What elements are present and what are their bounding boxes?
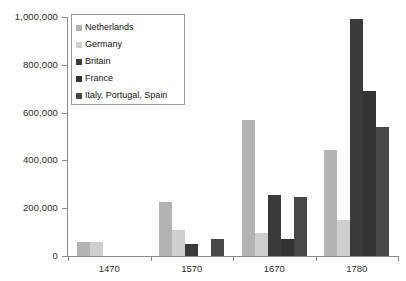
bar-italy-portugal-spain-1670 <box>294 197 307 256</box>
bar-britain-1670 <box>268 195 281 256</box>
legend-swatch-icon <box>76 93 82 99</box>
bar-italy-portugal-spain-1780 <box>376 127 389 256</box>
bar-netherlands-1670 <box>242 120 255 256</box>
legend-swatch-icon <box>76 76 82 82</box>
y-axis-tick-label: 1,000,000 <box>0 12 58 22</box>
legend-item-label: Britain <box>85 57 111 66</box>
bar-germany-1470 <box>90 242 103 256</box>
legend-item-label: France <box>85 74 113 83</box>
legend-item: Germany <box>76 36 180 53</box>
x-axis-tick <box>151 256 152 261</box>
bar-netherlands-1780 <box>324 150 337 256</box>
bar-britain-1780 <box>350 19 363 256</box>
x-axis-tick-label: 1780 <box>327 264 387 274</box>
legend-swatch-icon <box>76 25 82 31</box>
x-axis-tick <box>398 256 399 261</box>
bar-germany-1570 <box>172 230 185 256</box>
legend-item: Britain <box>76 53 180 70</box>
legend-item-label: Germany <box>85 40 122 49</box>
legend-item: Netherlands <box>76 19 180 36</box>
legend-item-label: Italy, Portugal, Spain <box>85 91 167 100</box>
x-axis-tick-label: 1570 <box>162 264 222 274</box>
y-axis-tick-label: 200,000 <box>0 203 58 213</box>
x-axis-tick-label: 1470 <box>79 264 139 274</box>
bar-germany-1670 <box>255 233 268 256</box>
legend-swatch-icon <box>76 59 82 65</box>
x-axis-tick-label: 1670 <box>244 264 304 274</box>
bar-france-1670 <box>281 239 294 256</box>
bar-france-1780 <box>363 91 376 256</box>
x-axis-tick <box>68 256 69 261</box>
bar-chart: 0200,000400,000600,000800,0001,000,000 1… <box>0 0 406 281</box>
legend-item: France <box>76 70 180 87</box>
x-axis-tick <box>316 256 317 261</box>
y-axis-tick-label: 800,000 <box>0 60 58 70</box>
bar-germany-1780 <box>337 220 350 256</box>
bar-britain-1570 <box>185 244 198 256</box>
y-axis-tick-label: 400,000 <box>0 155 58 165</box>
bar-netherlands-1470 <box>77 242 90 256</box>
legend-item-label: Netherlands <box>85 23 134 32</box>
bar-netherlands-1570 <box>159 202 172 256</box>
y-axis-tick-label: 0 <box>0 251 58 261</box>
bar-italy-portugal-spain-1570 <box>211 239 224 256</box>
legend-swatch-icon <box>76 42 82 48</box>
x-axis-tick <box>233 256 234 261</box>
y-axis-tick-label: 600,000 <box>0 108 58 118</box>
chart-legend: NetherlandsGermanyBritainFranceItaly, Po… <box>71 14 185 105</box>
legend-item: Italy, Portugal, Spain <box>76 87 180 104</box>
